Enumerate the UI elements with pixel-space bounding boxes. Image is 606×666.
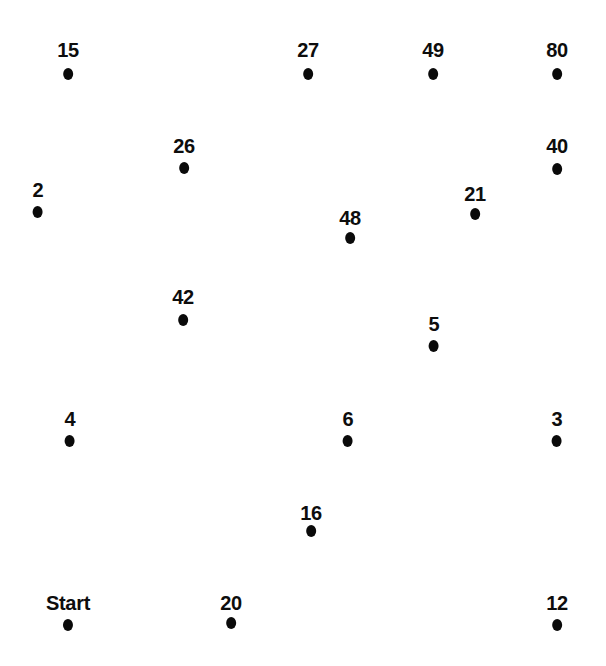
dot-node[interactable]: 20 [220,593,242,629]
dot-node[interactable]: 5 [429,314,440,352]
dot-label: 15 [57,40,79,60]
dot-node[interactable]: 49 [422,40,444,80]
dot-marker-icon[interactable] [226,617,236,629]
dot-marker-icon[interactable] [428,68,438,80]
dot-label: 27 [297,40,319,60]
dot-marker-icon[interactable] [65,435,75,447]
dot-node[interactable]: 6 [343,409,354,447]
dot-marker-icon[interactable] [552,163,562,175]
dot-marker-icon[interactable] [33,206,43,218]
dot-node[interactable]: 3 [552,409,563,447]
dot-node[interactable]: Start [46,593,90,631]
dot-label: 48 [339,208,361,228]
dot-node[interactable]: 80 [546,40,568,80]
dot-label: 4 [65,409,76,429]
dot-label: 49 [422,40,444,60]
dot-label: 40 [546,136,568,156]
dot-node[interactable]: 16 [300,503,322,537]
dot-label: 21 [464,184,486,204]
dot-marker-icon[interactable] [345,232,355,244]
dot-node[interactable]: 4 [65,409,76,447]
dot-marker-icon[interactable] [552,68,562,80]
dot-node[interactable]: 26 [173,136,195,174]
connect-the-dots-canvas: 1527498026402214842546316Start2012 [0,0,606,666]
dot-marker-icon[interactable] [178,314,188,326]
dot-marker-icon[interactable] [343,435,353,447]
dot-label: 80 [546,40,568,60]
dot-label: 16 [300,503,322,523]
dot-label: 6 [343,409,354,429]
dot-node[interactable]: 2 [33,180,44,218]
dot-node[interactable]: 12 [546,593,568,631]
dot-label: 3 [552,409,563,429]
dot-marker-icon[interactable] [552,435,562,447]
dot-label: 20 [220,593,242,613]
dot-marker-icon[interactable] [552,619,562,631]
dot-node[interactable]: 21 [464,184,486,220]
dot-node[interactable]: 27 [297,40,319,80]
dot-marker-icon[interactable] [303,68,313,80]
dot-marker-icon[interactable] [470,208,480,220]
dot-marker-icon[interactable] [63,619,73,631]
dot-label: Start [46,593,90,613]
dot-node[interactable]: 40 [546,136,568,175]
dot-label: 26 [173,136,195,156]
dot-node[interactable]: 15 [57,40,79,80]
dot-marker-icon[interactable] [306,525,316,537]
dot-label: 42 [172,287,194,307]
dot-label: 5 [429,314,440,334]
dot-marker-icon[interactable] [63,68,73,80]
dot-marker-icon[interactable] [429,340,439,352]
dot-label: 12 [546,593,568,613]
dot-marker-icon[interactable] [179,162,189,174]
dot-node[interactable]: 48 [339,208,361,244]
dot-node[interactable]: 42 [172,287,194,326]
dot-label: 2 [33,180,44,200]
